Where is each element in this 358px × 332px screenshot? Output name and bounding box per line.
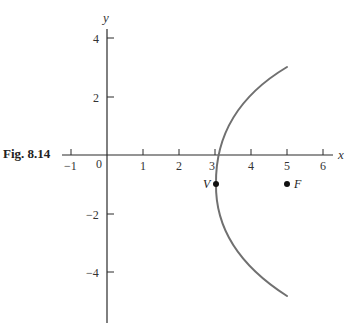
x-tick-label: 4 <box>248 159 254 173</box>
parabola-figure: Fig. 8.14 −1 0 1 2 3 4 5 6 4 2 −2 −4 <box>0 0 358 332</box>
y-axis-label: y <box>101 10 109 25</box>
y-tick-label: 2 <box>93 91 99 105</box>
x-tick-label: 0 <box>96 157 102 171</box>
y-tick-labels: 4 2 −2 −4 <box>86 32 99 280</box>
x-axis-label: x <box>337 147 344 162</box>
focus-label: F <box>293 177 302 191</box>
x-tick-label: 2 <box>176 159 182 173</box>
y-tick-label: −4 <box>86 266 99 280</box>
x-tick-label: −1 <box>64 159 77 173</box>
x-tick-label: 3 <box>209 159 215 173</box>
parabola-curve <box>216 67 287 296</box>
focus-point <box>284 181 290 187</box>
x-ticks <box>71 149 323 155</box>
vertex-label: V <box>203 177 212 191</box>
vertex-point <box>213 181 219 187</box>
x-tick-label: 1 <box>140 159 146 173</box>
y-tick-label: 4 <box>93 32 99 46</box>
y-tick-label: −2 <box>86 208 99 222</box>
figure-caption: Fig. 8.14 <box>3 146 51 161</box>
x-tick-label: 5 <box>284 159 290 173</box>
x-tick-label: 6 <box>320 159 326 173</box>
x-tick-labels: −1 0 1 2 3 4 5 6 <box>64 157 326 173</box>
axes <box>62 29 333 323</box>
